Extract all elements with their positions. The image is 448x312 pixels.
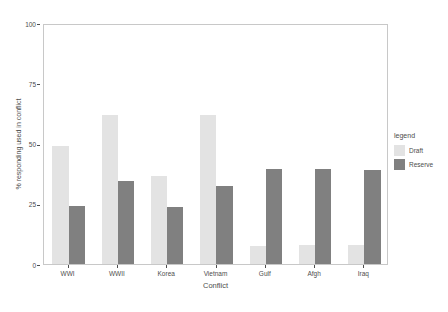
x-tick-label-wwi: WWI <box>61 270 75 278</box>
bar-draft-afgh <box>299 245 315 264</box>
bar-group <box>151 25 184 264</box>
x-tick-label-vietnam: Vietnam <box>204 270 228 278</box>
bar-draft-iraq <box>348 245 364 264</box>
legend-swatch-icon <box>394 145 405 156</box>
x-tick-label-afgh: Afgh <box>307 270 320 278</box>
y-tick-mark <box>37 265 40 266</box>
bar-group <box>348 25 381 264</box>
y-tick-label: 0 <box>32 262 36 269</box>
y-tick-mark <box>37 145 40 146</box>
legend-item-label: Reserve <box>409 160 433 169</box>
legend-item-draft[interactable]: Draft <box>394 144 446 157</box>
x-tick-mark <box>68 265 69 268</box>
y-tick-mark <box>37 24 40 25</box>
x-tick-label-iraq: Iraq <box>358 270 369 278</box>
x-tick-label-korea: Korea <box>158 270 175 278</box>
y-axis-ticks: 0255075100 <box>20 0 40 312</box>
bar-draft-vietnam <box>200 115 216 264</box>
x-tick-mark <box>363 265 364 268</box>
bar-draft-wwi <box>52 146 68 264</box>
plot-panel <box>43 24 388 265</box>
bar-chart: % responding used in conflict 0255075100… <box>0 0 448 312</box>
y-tick-label: 50 <box>29 141 36 148</box>
bar-draft-gulf <box>250 246 266 264</box>
y-tick-label: 25 <box>29 201 36 208</box>
y-tick-label: 100 <box>25 21 36 28</box>
bar-reserve-vietnam <box>216 186 232 264</box>
bar-reserve-korea <box>167 207 183 264</box>
y-tick-label: 75 <box>29 81 36 88</box>
bar-draft-korea <box>151 176 167 264</box>
legend-title: legend <box>394 131 446 140</box>
x-tick-mark <box>216 265 217 268</box>
bar-reserve-afgh <box>315 169 331 264</box>
x-tick-label-wwii: WWII <box>109 270 125 278</box>
legend-items: DraftReserve <box>394 144 446 171</box>
bar-reserve-gulf <box>266 169 282 264</box>
legend-swatch-icon <box>394 159 405 170</box>
y-tick-mark <box>37 84 40 85</box>
x-tick-mark <box>265 265 266 268</box>
x-tick-mark <box>314 265 315 268</box>
y-tick-mark <box>37 205 40 206</box>
bar-group <box>250 25 283 264</box>
bar-group <box>102 25 135 264</box>
x-tick-mark <box>166 265 167 268</box>
legend: legend DraftReserve <box>394 131 446 172</box>
bars-layer <box>44 25 387 264</box>
bar-group <box>52 25 85 264</box>
bar-group <box>299 25 332 264</box>
bar-reserve-wwii <box>118 181 134 264</box>
legend-item-label: Draft <box>409 146 423 155</box>
bar-group <box>200 25 233 264</box>
bar-draft-wwii <box>102 115 118 264</box>
bar-reserve-wwi <box>69 206 85 264</box>
legend-item-reserve[interactable]: Reserve <box>394 158 446 171</box>
x-tick-label-gulf: Gulf <box>259 270 271 278</box>
bar-reserve-iraq <box>364 170 380 264</box>
x-tick-mark <box>117 265 118 268</box>
x-axis-title: Conflict <box>43 281 388 291</box>
